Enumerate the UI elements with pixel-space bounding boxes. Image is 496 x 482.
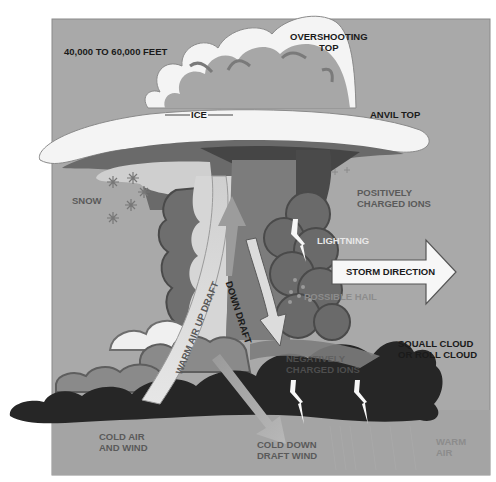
storm-direction-label: STORM DIRECTION xyxy=(346,267,435,278)
anvil-top-label: ANVIL TOP xyxy=(370,110,420,121)
cold-air-line1: COLD AIR xyxy=(99,432,148,443)
negatively-charged-line1: NEGATIVELY xyxy=(286,354,360,365)
warm-air-label: WARM AIR xyxy=(436,437,466,458)
cold-down-draft-line1: COLD DOWN xyxy=(257,440,317,451)
possible-hail-label: POSSIBLE HAIL xyxy=(304,292,377,303)
ice-label: ICE xyxy=(191,110,207,121)
positively-charged-line2: CHARGED IONS xyxy=(357,199,431,210)
negatively-charged-line2: CHARGED IONS xyxy=(286,365,360,376)
diagram-artwork xyxy=(0,0,496,482)
overshooting-top-line1: OVERSHOOTING xyxy=(290,32,368,43)
warm-air-line2: AIR xyxy=(436,448,466,459)
squall-cloud-line2: OR ROLL CLOUD xyxy=(398,350,477,361)
overshooting-top-line2: TOP xyxy=(290,43,368,54)
cold-air-line2: AND WIND xyxy=(99,443,148,454)
cold-down-draft-line2: DRAFT WIND xyxy=(257,451,317,462)
snow-label: SNOW xyxy=(72,196,102,207)
squall-cloud-line1: SQUALL CLOUD xyxy=(398,339,477,350)
cold-air-wind-label: COLD AIR AND WIND xyxy=(99,432,148,453)
positively-charged-label: POSITIVELY CHARGED IONS xyxy=(357,188,431,209)
overshooting-top-label: OVERSHOOTING TOP xyxy=(290,32,368,53)
negatively-charged-label: NEGATIVELY CHARGED IONS xyxy=(286,354,360,375)
cold-down-draft-label: COLD DOWN DRAFT WIND xyxy=(257,440,317,461)
lightning-label: LIGHTNING xyxy=(317,236,369,247)
squall-cloud-label: SQUALL CLOUD OR ROLL CLOUD xyxy=(398,339,477,360)
warm-air-line1: WARM xyxy=(436,437,466,448)
altitude-label: 40,000 TO 60,000 FEET xyxy=(64,47,167,58)
thunderstorm-diagram: 40,000 TO 60,000 FEET OVERSHOOTING TOP I… xyxy=(0,0,496,482)
positively-charged-line1: POSITIVELY xyxy=(357,188,431,199)
